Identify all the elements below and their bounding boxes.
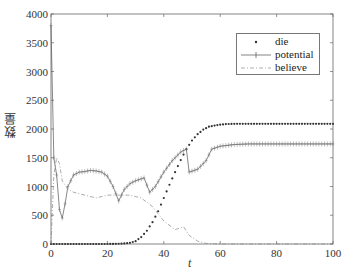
legend-label: potential: [275, 48, 314, 61]
svg-text:80: 80: [271, 247, 283, 259]
x-axis-label: t: [188, 256, 191, 271]
plus-line-icon: [241, 48, 271, 61]
svg-text:100: 100: [325, 247, 342, 259]
legend-label: die: [275, 35, 288, 48]
legend-item-potential: potential: [237, 48, 319, 61]
legend: die potential believe: [236, 33, 320, 75]
svg-text:3500: 3500: [26, 37, 49, 49]
y-axis-label: 数量: [2, 112, 19, 138]
svg-text:2500: 2500: [26, 94, 49, 106]
svg-text:3000: 3000: [26, 66, 49, 78]
svg-text:20: 20: [102, 247, 114, 259]
svg-text:1000: 1000: [26, 181, 49, 193]
dot-marker-icon: [241, 35, 271, 48]
svg-text:40: 40: [158, 247, 170, 259]
svg-text:500: 500: [32, 209, 49, 221]
svg-text:2000: 2000: [26, 123, 49, 135]
legend-item-believe: believe: [237, 61, 319, 74]
svg-text:0: 0: [43, 238, 49, 250]
dash-dot-line-icon: [241, 61, 271, 74]
legend-label: believe: [275, 61, 307, 74]
svg-text:0: 0: [48, 247, 54, 259]
legend-item-die: die: [237, 35, 319, 48]
svg-text:1500: 1500: [26, 152, 49, 164]
svg-text:60: 60: [215, 247, 227, 259]
svg-text:4000: 4000: [26, 8, 49, 20]
